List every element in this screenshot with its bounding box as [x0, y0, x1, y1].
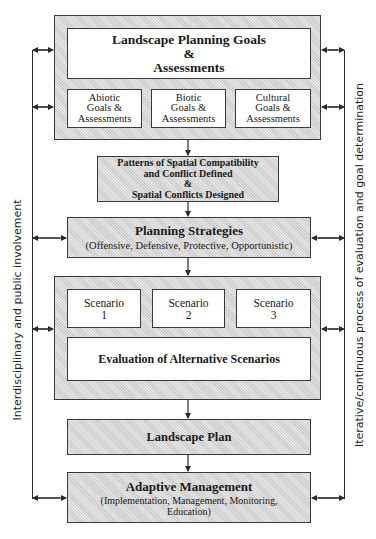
flow-arrows: [0, 0, 376, 539]
left-side-label: Interdisciplinary and public involvement: [11, 200, 24, 421]
right-side-label: Iterative/continuous process of evaluati…: [353, 83, 366, 447]
